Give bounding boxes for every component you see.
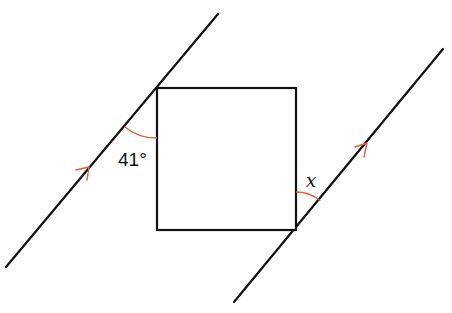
given-angle-arc [125,127,158,138]
unknown-angle-label: x [306,170,316,191]
unknown-angle-arc [296,192,320,201]
square [157,88,296,230]
geometry-diagram: 41° x [0,0,452,313]
given-angle-label: 41° [118,149,147,170]
